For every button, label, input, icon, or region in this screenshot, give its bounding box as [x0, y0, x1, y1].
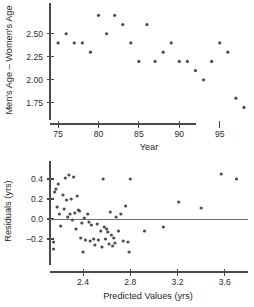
x-axis-tick-label: 3.2 — [172, 277, 184, 287]
data-point — [81, 250, 84, 253]
data-point — [143, 229, 146, 232]
data-point — [72, 175, 75, 178]
data-point — [97, 238, 100, 241]
data-point — [99, 229, 102, 232]
data-point — [96, 222, 99, 225]
data-point — [124, 204, 127, 207]
y-axis-tick-label: 0.0 — [31, 214, 43, 224]
data-point — [242, 106, 245, 109]
data-point — [59, 224, 62, 227]
data-point — [56, 41, 59, 44]
data-point — [145, 23, 148, 26]
data-point — [178, 60, 181, 63]
data-point — [235, 177, 238, 180]
data-point — [63, 207, 66, 210]
data-point — [61, 193, 64, 196]
scatterplot-figure: 1.752.002.252.507580859095YearMen's Age … — [0, 0, 254, 307]
data-point — [93, 243, 96, 246]
data-point — [113, 14, 116, 17]
x-axis-tick-label: 80 — [94, 129, 104, 139]
x-axis-tick-label: 90 — [175, 129, 185, 139]
data-point — [121, 23, 124, 26]
data-point — [113, 241, 116, 244]
data-point — [153, 60, 156, 63]
y-axis-title: Residuals (yrs) — [3, 180, 13, 241]
data-point — [128, 250, 131, 253]
data-point — [112, 236, 115, 239]
data-point — [122, 239, 125, 242]
data-point — [68, 212, 71, 215]
chart-panel-residuals: –0.20.00.20.42.42.83.23.6Predicted Value… — [0, 155, 254, 307]
data-point — [80, 221, 83, 224]
data-point — [162, 225, 165, 228]
data-point — [67, 173, 70, 176]
data-point — [54, 187, 57, 190]
data-point — [76, 194, 79, 197]
data-point — [115, 215, 118, 218]
y-axis-tick-label: 2.25 — [26, 52, 43, 62]
data-point — [58, 212, 61, 215]
data-point — [137, 60, 140, 63]
data-point — [89, 51, 92, 54]
data-point — [71, 218, 74, 221]
data-point — [86, 212, 89, 215]
data-point — [234, 97, 237, 100]
data-point — [110, 233, 113, 236]
data-point — [126, 240, 129, 243]
y-axis-tick-label: 1.75 — [26, 98, 43, 108]
data-point — [90, 223, 93, 226]
data-point — [119, 212, 122, 215]
data-point — [129, 177, 132, 180]
x-axis-tick-label: 95 — [215, 129, 225, 139]
x-axis-tick-label: 2.8 — [124, 277, 136, 287]
chart-panel-age-difference: 1.752.002.252.507580859095YearMen's Age … — [0, 0, 254, 155]
data-point — [170, 41, 173, 44]
data-point — [52, 240, 55, 243]
x-axis-title: Year — [140, 142, 159, 152]
x-axis-tick-label: 85 — [134, 129, 144, 139]
data-point — [74, 227, 77, 230]
residuals-vs-predicted-chart: –0.20.00.20.42.42.83.23.6Predicted Value… — [0, 155, 254, 307]
data-point — [83, 216, 86, 219]
data-point — [129, 41, 132, 44]
data-point-group — [56, 14, 245, 109]
data-point — [226, 51, 229, 54]
y-axis-tick-label: 2.00 — [26, 75, 43, 85]
y-axis-tick-label: 2.50 — [26, 29, 43, 39]
data-point — [177, 200, 180, 203]
data-point — [104, 237, 107, 240]
data-point — [97, 14, 100, 17]
data-point — [218, 41, 221, 44]
data-point — [100, 245, 103, 248]
data-point — [84, 238, 87, 241]
y-axis-tick-label: –0.2 — [26, 234, 43, 244]
data-point — [194, 69, 197, 72]
data-point-group — [52, 172, 238, 253]
age-difference-vs-year-chart: 1.752.002.252.507580859095YearMen's Age … — [0, 0, 254, 155]
data-point — [186, 60, 189, 63]
data-point — [106, 230, 109, 233]
data-point — [55, 205, 58, 208]
data-point — [79, 236, 82, 239]
data-point — [105, 32, 108, 35]
x-axis-title: Predicted Values (yrs) — [103, 291, 193, 301]
data-point — [202, 78, 205, 81]
data-point — [200, 206, 203, 209]
data-point — [66, 215, 69, 218]
data-point — [65, 198, 68, 201]
y-axis-title: Men's Age – Women's Age — [4, 5, 14, 114]
data-point — [162, 51, 165, 54]
y-axis-tick-label: 0.2 — [31, 194, 43, 204]
data-point — [89, 239, 92, 242]
x-axis-tick-label: 75 — [53, 129, 63, 139]
data-point — [70, 197, 73, 200]
data-point — [87, 220, 90, 223]
data-point — [52, 247, 55, 250]
y-axis-tick-label: 0.4 — [31, 174, 43, 184]
data-point — [73, 211, 76, 214]
data-point — [117, 229, 120, 232]
data-point — [64, 176, 67, 179]
data-point — [53, 190, 56, 193]
data-point — [105, 227, 108, 230]
data-point — [78, 209, 81, 212]
